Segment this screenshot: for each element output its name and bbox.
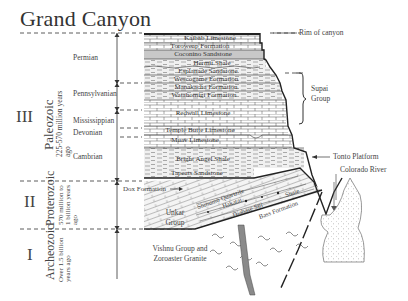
era-age-proterozoic: 570 million to 1 billion years ago: [58, 183, 79, 225]
period-pennsylvanian: Pennsylvanian: [73, 90, 117, 98]
rim-label: Rim of canyon: [299, 29, 344, 37]
layer-toroweap: Toroweap Formation: [171, 43, 230, 50]
layer-hermit: Hermit Shale: [193, 60, 230, 67]
basement-label: Vishnu Group and Zoroaster Granite: [145, 244, 215, 264]
era-numeral-iii: III: [16, 108, 33, 125]
period-mississippian: Mississippian: [73, 117, 114, 125]
era-name-proterozoic: Proterozoic: [44, 171, 56, 226]
era-numeral-ii: II: [24, 193, 35, 210]
layer-tapeats: Tapeats Sandstone: [171, 170, 223, 177]
era-age-paleozoic: 225-570 million years ago: [56, 81, 71, 157]
era-name-archeozoic: Archeozoic: [44, 225, 56, 280]
layer-coconino: Coconino Sandstone: [174, 51, 232, 58]
era-numeral-i: I: [27, 246, 33, 263]
layer-bright-angel: Bright Angel Shale: [176, 156, 230, 163]
layer-temple-butte: Temple Butte Limestone: [165, 127, 234, 134]
era-age-archeozoic: Over 1.5 billion years ago: [58, 232, 72, 282]
layer-watahomigi: Watahomigi Formation: [172, 92, 237, 99]
layer-kaibab: Kaibab Limestone: [184, 35, 236, 42]
layer-muav: Muav Limestone: [171, 137, 219, 144]
unkar-group-label: Unkar Group: [160, 208, 190, 228]
layer-wescogame: Wescogame Formation: [174, 76, 239, 83]
period-devonian: Devonian: [73, 129, 102, 137]
layer-redwall: Redwall Limestone: [176, 110, 231, 117]
layer-manakacha: Manakacha Formation: [174, 84, 237, 91]
tonto-label: Tonto Platform: [333, 153, 379, 161]
period-permian: Permian: [73, 54, 98, 62]
layer-esplanade: Esplanade Sandstone: [178, 68, 237, 75]
period-cambrian: Cambrian: [73, 153, 103, 161]
dox-formation-label: Dox Formation: [123, 186, 166, 193]
supai-label: Supai Group: [311, 84, 339, 104]
era-name-paleozoic: Paleozoic: [42, 99, 55, 150]
colorado-river-label: Colorado River: [340, 166, 386, 174]
